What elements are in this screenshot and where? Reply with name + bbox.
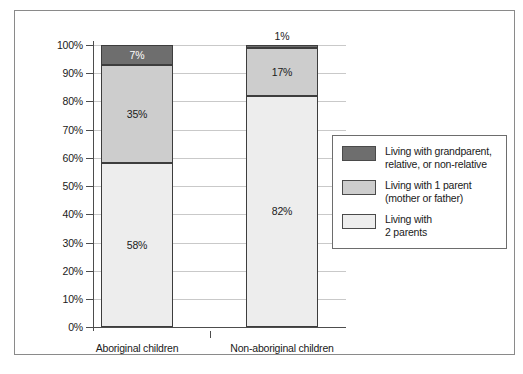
legend-swatch-two-parents-icon (342, 214, 376, 229)
tick-40 (86, 214, 93, 215)
bar-segment-one-parent[interactable]: 17% (246, 48, 318, 96)
bar-non-aboriginal-children[interactable]: 1% 17% 82% (246, 45, 318, 327)
legend-label-two-parents-line2: 2 parents (385, 226, 432, 239)
y-tick-label-0: 0% (68, 321, 83, 333)
tick-10 (86, 299, 93, 300)
bar-segment-label-two-parents: 58% (127, 239, 147, 251)
tick-50 (86, 186, 93, 187)
y-tick-label-20: 20% (63, 265, 83, 277)
y-tick-label-70: 70% (63, 124, 83, 136)
y-tick-label-40: 40% (63, 208, 83, 220)
bar-segment-label-grandparent-outside: 1% (246, 30, 318, 42)
legend-label-grandparent-line2: relative, or non-relative (385, 158, 492, 171)
y-tick-label-90: 90% (63, 67, 83, 79)
tick-60 (86, 158, 93, 159)
legend-label-two-parents: Living with 2 parents (385, 213, 432, 238)
bar-aboriginal-children[interactable]: 7% 35% 58% (101, 45, 173, 327)
y-axis-labels: 100% 90% 80% 70% 60% 50% 40% 30% 20% 10%… (39, 11, 83, 356)
legend-swatch-grandparent-icon (342, 146, 376, 161)
bar-segment-two-parents[interactable]: 82% (246, 96, 318, 327)
bar-segment-label-one-parent: 35% (127, 108, 147, 120)
tick-80 (86, 101, 93, 102)
tick-90 (86, 73, 93, 74)
bar-segment-label-one-parent: 17% (272, 66, 292, 78)
legend-label-grandparent-line1: Living with grandparent, (385, 145, 492, 158)
tick-0 (86, 327, 93, 328)
figure-frame: 100% 90% 80% 70% 60% 50% 40% 30% 20% 10%… (14, 10, 515, 355)
category-label-non-aboriginal-children: Non-aboriginal children (215, 342, 349, 354)
category-label-aboriginal-children: Aboriginal children (81, 342, 193, 354)
legend-label-one-parent-line1: Living with 1 parent (385, 179, 471, 192)
tick-30 (86, 243, 93, 244)
y-axis-line (93, 41, 94, 331)
tick-20 (86, 271, 93, 272)
y-tick-label-50: 50% (63, 180, 83, 192)
y-tick-label-60: 60% (63, 152, 83, 164)
bar-segment-two-parents[interactable]: 58% (101, 163, 173, 327)
category-tick-divider (210, 331, 211, 338)
bar-segment-one-parent[interactable]: 35% (101, 65, 173, 164)
legend-label-grandparent: Living with grandparent, relative, or no… (385, 145, 492, 170)
legend-item-one-parent[interactable]: Living with 1 parent (mother or father) (342, 179, 498, 204)
legend-label-two-parents-line1: Living with (385, 213, 432, 226)
y-tick-label-10: 10% (63, 293, 83, 305)
legend-swatch-one-parent-icon (342, 180, 376, 195)
y-tick-label-80: 80% (63, 95, 83, 107)
chart-legend: Living with grandparent, relative, or no… (332, 135, 507, 249)
gridline-0 (93, 327, 346, 328)
legend-item-grandparent[interactable]: Living with grandparent, relative, or no… (342, 145, 498, 170)
clipped-caption-strip (0, 366, 523, 374)
bar-segment-grandparent[interactable]: 7% (101, 45, 173, 65)
legend-label-one-parent: Living with 1 parent (mother or father) (385, 179, 471, 204)
tick-100 (86, 45, 93, 46)
bar-segment-label-grandparent: 7% (130, 49, 145, 61)
tick-70 (86, 130, 93, 131)
chart-plot-area: 100% 90% 80% 70% 60% 50% 40% 30% 20% 10%… (15, 11, 516, 356)
y-tick-label-30: 30% (63, 237, 83, 249)
bar-segment-label-two-parents: 82% (272, 205, 292, 217)
legend-label-one-parent-line2: (mother or father) (385, 192, 471, 205)
legend-item-two-parents[interactable]: Living with 2 parents (342, 213, 498, 238)
y-tick-label-100: 100% (57, 39, 83, 51)
